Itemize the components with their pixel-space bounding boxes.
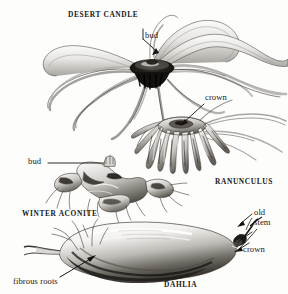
- label-bud-winter-aconite: bud: [28, 157, 41, 166]
- label-ranunculus: RANUNCULUS: [215, 178, 273, 186]
- label-bud-top: bud: [145, 31, 158, 40]
- label-dahlia: DAHLIA: [164, 281, 197, 289]
- dahlia-illustration: [24, 217, 262, 283]
- label-old-stem: old stem: [254, 208, 271, 227]
- label-old-stem-line1: old: [254, 207, 265, 217]
- label-crown-top: crown: [205, 93, 227, 102]
- label-crown-dahlia: crown: [243, 245, 265, 254]
- illustration-plate: DESERT CANDLE bud crown RANUNCULUS bud W…: [0, 0, 288, 294]
- label-fibrous-roots: fibrous roots: [13, 277, 58, 286]
- label-winter-aconite: WINTER ACONITE: [22, 210, 98, 218]
- label-old-stem-line2: stem: [254, 217, 271, 227]
- label-desert-candle: DESERT CANDLE: [68, 11, 138, 19]
